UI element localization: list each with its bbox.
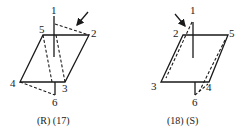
figure-18s: 1 2 5 3 4 6 (18) (S): [151, 4, 235, 127]
dashed-bond-1-3: [166, 22, 192, 78]
arrow-icon: [175, 14, 185, 26]
figure-r17: 1 5 2 4 3 6 (R) (17): [10, 4, 97, 127]
dashed-bond-5-6: [43, 35, 52, 82]
label-5: 5: [229, 27, 235, 39]
label-5: 5: [39, 23, 45, 35]
label-4: 4: [206, 81, 212, 93]
stereochemistry-diagram: 1 5 2 4 3 6 (R) (17) 1 2 5 3 4 6 (18) (S…: [0, 0, 242, 130]
label-2: 2: [173, 27, 179, 39]
dashed-bond-4-6: [20, 82, 55, 95]
arrow-icon: [77, 12, 88, 25]
label-1: 1: [51, 4, 57, 16]
parallelogram-plane: [161, 35, 228, 82]
label-6: 6: [52, 96, 58, 108]
label-1: 1: [190, 4, 196, 16]
label-4: 4: [10, 77, 16, 89]
caption-18s: (18) (S): [167, 115, 198, 127]
dashed-bond-1-2: [55, 24, 89, 35]
caption-r17: (R) (17): [37, 115, 70, 127]
label-2: 2: [91, 27, 97, 39]
label-3: 3: [151, 80, 157, 92]
dashed-bond-1-3: [56, 35, 65, 82]
label-6: 6: [192, 96, 198, 108]
dashed-bond-5-6: [199, 40, 225, 92]
label-3: 3: [62, 82, 68, 94]
